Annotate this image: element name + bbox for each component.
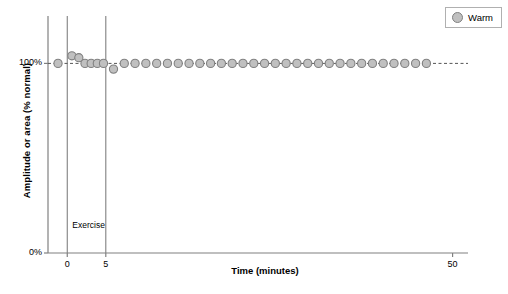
data-point: [314, 59, 322, 67]
data-point: [142, 59, 150, 67]
data-point: [174, 59, 182, 67]
data-point: [99, 59, 107, 67]
data-point: [412, 59, 420, 67]
data-point: [239, 59, 247, 67]
data-point: [153, 59, 161, 67]
data-point: [228, 59, 236, 67]
chart-container: Amplitude or area (% normal) Time (minut…: [0, 0, 508, 294]
data-point: [185, 59, 193, 67]
x-axis-title: Time (minutes): [140, 265, 390, 276]
data-point: [120, 59, 128, 67]
data-point: [282, 59, 290, 67]
data-point: [196, 59, 204, 67]
data-point: [390, 59, 398, 67]
data-point: [207, 59, 215, 67]
legend-label-warm: Warm: [468, 12, 493, 23]
data-point: [347, 59, 355, 67]
legend: Warm: [445, 7, 502, 28]
data-point: [163, 59, 171, 67]
y-tick-label: 0%: [0, 247, 42, 257]
data-point: [131, 59, 139, 67]
exercise-annotation: Exercise: [72, 220, 105, 230]
y-tick-label: 100%: [0, 57, 42, 67]
plot-area: [0, 0, 508, 294]
data-point: [304, 59, 312, 67]
data-point: [401, 59, 409, 67]
data-point: [109, 65, 117, 73]
data-point: [217, 59, 225, 67]
data-point: [336, 59, 344, 67]
data-point: [271, 59, 279, 67]
data-point: [54, 59, 62, 67]
series-warm: [54, 52, 431, 73]
data-point: [293, 59, 301, 67]
x-tick-label: 0: [47, 259, 87, 269]
data-point: [422, 59, 430, 67]
x-tick-label: 50: [433, 259, 473, 269]
x-tick-label: 5: [86, 259, 126, 269]
legend-marker-warm: [452, 12, 463, 23]
data-point: [379, 59, 387, 67]
data-point: [325, 59, 333, 67]
data-point: [368, 59, 376, 67]
data-point: [358, 59, 366, 67]
data-point: [250, 59, 258, 67]
data-point: [260, 59, 268, 67]
